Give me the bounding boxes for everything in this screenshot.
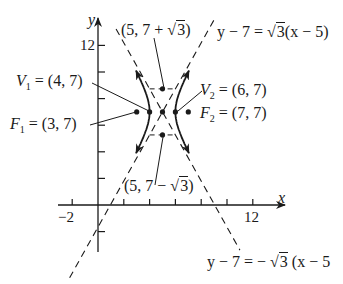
label-f2: F2 = (7, 7) — [200, 105, 266, 124]
x-tick-label-neg2: −2 — [58, 210, 74, 225]
y-axis-label: y — [88, 12, 95, 28]
vertex-v2-point — [173, 109, 178, 114]
asymptote-negative-slope — [116, 29, 240, 250]
vertex-v1-point — [147, 109, 152, 114]
label-asymptote-positive: y − 7 = √3(x − 5) — [217, 24, 329, 40]
y-tick-label-12: 12 — [80, 38, 95, 53]
x-tick-label-12: 12 — [244, 210, 259, 225]
center-point — [160, 109, 165, 114]
x-axis-ticks — [72, 199, 253, 205]
x-axis-label: x — [278, 190, 285, 206]
label-top-point: (5, 7 + √3) — [121, 22, 190, 38]
leader-v2 — [178, 91, 202, 111]
bottom-point — [160, 132, 165, 137]
top-point — [160, 86, 165, 91]
focus-f1-point — [134, 109, 139, 114]
points — [134, 86, 191, 137]
hyperbola-diagram — [0, 0, 343, 284]
asymptote-positive-slope — [70, 17, 216, 277]
leader-f1 — [90, 112, 136, 125]
label-bottom-point: (5, 7 − √3) — [124, 178, 193, 194]
label-v2: V2 = (6, 7) — [200, 82, 266, 101]
y-axis-ticks — [98, 45, 105, 231]
label-v1: V1 = (4, 7) — [16, 73, 82, 92]
focus-f2-point — [186, 109, 191, 114]
leader-lines — [90, 38, 202, 185]
leader-v1 — [92, 83, 149, 111]
label-asymptote-negative: y − 7 = − √3 (x − 5 — [207, 254, 330, 270]
asymptotes — [70, 17, 240, 277]
label-f1: F1 = (3, 7) — [10, 116, 76, 135]
leader-top — [154, 38, 164, 88]
